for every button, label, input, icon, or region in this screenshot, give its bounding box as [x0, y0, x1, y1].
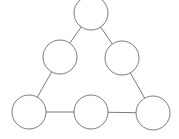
edge-top-to-mid-right — [101, 27, 113, 44]
node-top — [74, 0, 108, 30]
nodes-group — [12, 0, 170, 130]
triangle-graph-diagram — [0, 0, 179, 139]
edge-mid-left-to-bottom-left — [37, 72, 51, 97]
edge-mid-right-to-bottom-right — [130, 73, 144, 98]
node-mid-right — [105, 41, 139, 75]
node-mid-left — [43, 40, 77, 74]
node-bottom-left — [12, 95, 46, 129]
edge-top-to-mid-left — [70, 27, 81, 43]
node-bottom-middle — [74, 95, 108, 129]
node-bottom-right — [136, 96, 170, 130]
